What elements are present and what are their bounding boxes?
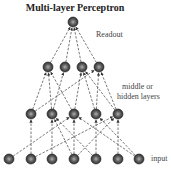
edge-arrow xyxy=(74,28,81,62)
edge-arrow xyxy=(49,73,52,109)
hidden-layers-label-line1: middle or xyxy=(122,82,153,92)
hidden1-node xyxy=(69,109,79,119)
edge-arrow xyxy=(33,73,46,110)
edge-arrow xyxy=(35,70,94,111)
edge-arrow xyxy=(79,117,135,156)
edge-arrow xyxy=(101,73,116,110)
hidden1-node xyxy=(47,109,57,119)
input-node xyxy=(134,154,144,164)
edge-arrow xyxy=(86,72,115,110)
edge-arrow xyxy=(50,27,70,62)
hidden2-node xyxy=(77,62,87,72)
edge-arrow xyxy=(55,119,72,154)
edge-arrow xyxy=(75,73,81,109)
input-node xyxy=(113,154,123,164)
hidden1-node xyxy=(113,109,123,119)
edge-arrow xyxy=(53,73,63,109)
input-node xyxy=(69,154,79,164)
hidden-layers-label-line2: hidden layers xyxy=(117,92,160,102)
input-node xyxy=(47,154,57,164)
input-node xyxy=(26,154,36,164)
hidden2-node xyxy=(94,62,104,72)
readout-node xyxy=(68,17,78,27)
input-node xyxy=(91,154,101,164)
readout-label: Readout xyxy=(96,30,123,40)
hidden2-node xyxy=(43,62,53,72)
edge-arrow xyxy=(51,72,72,109)
edge-arrow xyxy=(96,73,98,109)
hidden2-node xyxy=(60,62,70,72)
hidden1-node xyxy=(26,109,36,119)
input-label: input xyxy=(151,154,167,164)
hidden1-node xyxy=(91,109,101,119)
edge-arrow xyxy=(84,73,95,109)
input-node xyxy=(4,154,14,164)
edge-arrow xyxy=(76,27,96,62)
